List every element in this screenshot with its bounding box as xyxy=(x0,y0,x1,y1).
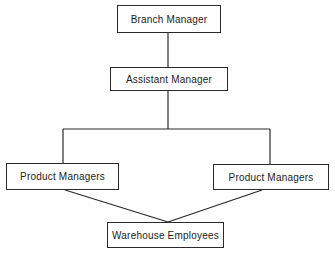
node-warehouse-employees: Warehouse Employees xyxy=(107,222,224,248)
edge-right-pm-to-warehouse xyxy=(168,190,262,222)
connector-lines xyxy=(0,0,335,256)
node-label: Warehouse Employees xyxy=(112,230,219,241)
edge-left-pm-to-warehouse xyxy=(65,190,168,222)
node-label: Product Managers xyxy=(20,171,105,182)
node-product-managers-left: Product Managers xyxy=(6,163,119,190)
node-label: Assistant Manager xyxy=(126,74,212,85)
node-product-managers-right: Product Managers xyxy=(213,164,329,190)
node-label: Product Managers xyxy=(229,172,314,183)
node-branch-manager: Branch Manager xyxy=(117,5,221,33)
node-assistant-manager: Assistant Manager xyxy=(110,67,228,91)
node-label: Branch Manager xyxy=(131,14,208,25)
